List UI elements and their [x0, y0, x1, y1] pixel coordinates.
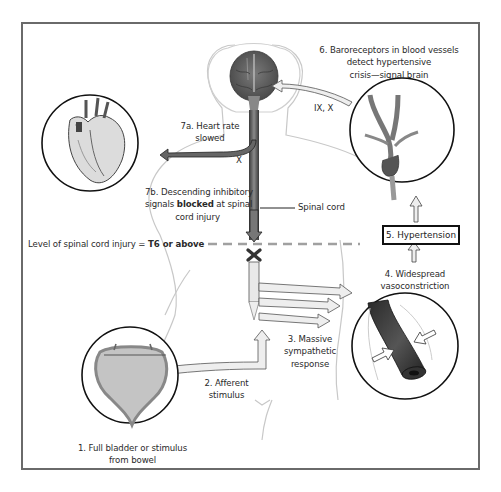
label-nerve-ix-x: IX, X	[314, 102, 333, 114]
label-step2: 2. Afferent stimulus	[199, 377, 254, 402]
label-step6: 6. Baroreceptors in blood vessels detect…	[314, 44, 464, 81]
heart-icon	[42, 95, 138, 191]
label-spinal-cord: Spinal cord	[298, 201, 345, 213]
label-step7a: 7a. Heart rate slowed	[180, 120, 240, 145]
label-injury-level: Level of spinal cord injury = T6 or abov…	[28, 238, 204, 250]
up-arrow-5-6	[410, 196, 422, 222]
label-nerve-x: X	[236, 154, 242, 166]
label-step7b: 7b. Descending inhibitory signals blocke…	[145, 186, 250, 223]
baroreceptor-arrow	[272, 80, 352, 106]
hypertension-box: 5. Hypertension	[382, 225, 460, 245]
carotid-baroreceptor-icon	[350, 78, 454, 200]
sympathetic-arrows	[259, 283, 352, 328]
brain-icon	[230, 51, 278, 110]
bladder-icon	[82, 327, 178, 425]
label-step1: 1. Full bladder or stimulus from bowel	[75, 442, 190, 467]
label-step4: 4. Widespread vasoconstriction	[370, 268, 460, 293]
up-arrow-4-5	[408, 242, 420, 262]
constricted-vessel-icon	[352, 293, 458, 399]
x-block-icon	[248, 250, 260, 260]
label-step3: 3. Massive sympathetic response	[280, 333, 340, 370]
